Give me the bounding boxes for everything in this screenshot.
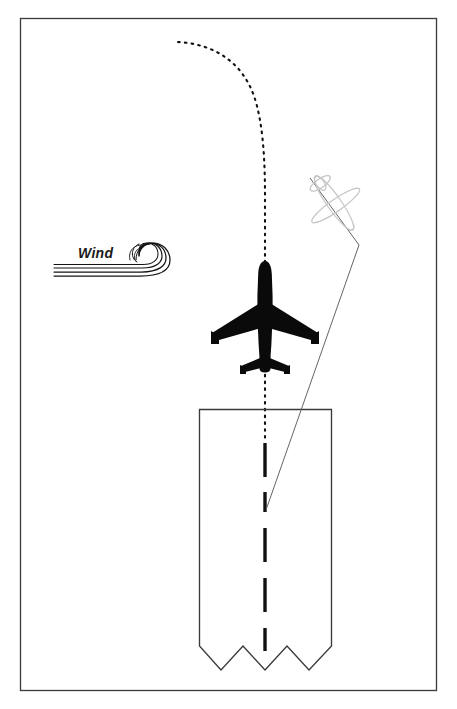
- dotted-ground-track: [178, 42, 265, 268]
- figure-root: Wind: [0, 0, 457, 709]
- diagram-canvas: Wind: [0, 0, 457, 709]
- wind-label: Wind: [78, 245, 113, 261]
- ghost-aircraft-symbol: [291, 159, 376, 246]
- figure-border: [21, 19, 437, 691]
- jet-aircraft-silhouette: [211, 261, 319, 374]
